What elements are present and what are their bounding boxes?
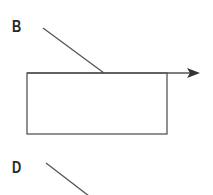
diagram-canvas <box>0 0 213 195</box>
incident-ray-b <box>43 28 104 73</box>
panel-label-b: B <box>12 19 21 35</box>
panel-label-d: D <box>12 160 21 176</box>
panel-b <box>27 28 200 134</box>
incident-ray-d <box>46 163 89 195</box>
rectangle-block <box>27 73 167 134</box>
panel-d <box>46 163 89 195</box>
